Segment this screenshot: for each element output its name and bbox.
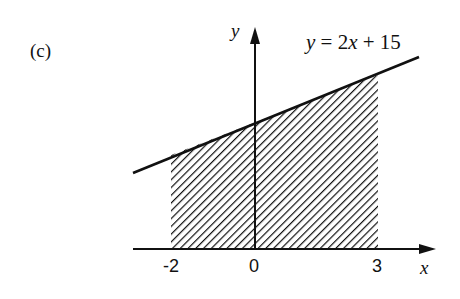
equation-var: x (348, 30, 357, 54)
x-tick-minus-2: -2 (163, 256, 179, 277)
equation-lhs: y (306, 30, 315, 54)
x-axis-arrow-icon (419, 244, 436, 254)
x-tick-0: 0 (249, 256, 259, 277)
equation-label: y = 2x + 15 (306, 30, 401, 55)
shaded-area (171, 75, 378, 249)
x-axis-label: x (420, 257, 428, 279)
panel-label: (c) (30, 40, 51, 62)
equation-coef: 2 (338, 30, 349, 54)
y-axis-label: y (231, 20, 239, 42)
x-tick-3: 3 (372, 256, 382, 277)
y-axis-arrow-icon (250, 27, 260, 44)
equation-rest: + 15 (358, 30, 401, 54)
equation-equals: = (315, 30, 337, 54)
